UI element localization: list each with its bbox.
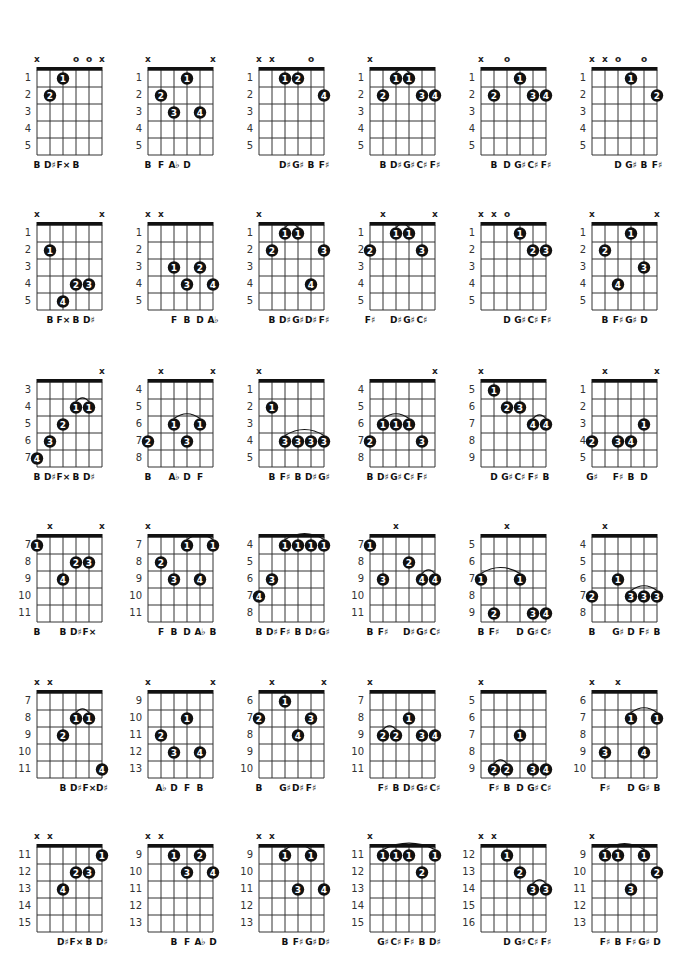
finger-dot: 1	[651, 712, 663, 724]
fret-number: 2	[564, 401, 586, 412]
svg-text:1: 1	[517, 575, 523, 585]
svg-text:3: 3	[419, 437, 425, 447]
fret-number: 9	[564, 746, 586, 757]
finger-dot: 4	[57, 883, 69, 895]
fret-number: 11	[120, 607, 142, 618]
finger-dot: 4	[612, 278, 624, 290]
fret-number: 2	[120, 89, 142, 100]
fret-number: 5	[453, 695, 475, 706]
svg-text:1: 1	[197, 420, 203, 430]
fret-number: 8	[9, 556, 31, 567]
note-name: C♯	[527, 160, 540, 170]
finger-dot: 1	[318, 539, 330, 551]
finger-dot: 3	[599, 746, 611, 758]
svg-text:3: 3	[419, 91, 425, 101]
finger-dot: 3	[416, 244, 428, 256]
nut-bar	[481, 690, 547, 694]
note-name: C♯	[403, 472, 416, 482]
note-name: F♯	[651, 160, 664, 170]
note-name: F	[181, 783, 194, 793]
finger-dot: 2	[70, 278, 82, 290]
finger-dot: 2	[142, 435, 154, 447]
svg-text:3: 3	[308, 714, 314, 724]
note-name: F♯	[599, 937, 612, 947]
fret-number: 7	[564, 712, 586, 723]
note-name: G♯	[638, 783, 651, 793]
fret-number: 3	[9, 106, 31, 117]
note-name: F♯	[638, 627, 651, 637]
finger-dot: 4	[429, 729, 441, 741]
svg-text:2: 2	[504, 403, 510, 413]
finger-dot: 3	[527, 883, 539, 895]
svg-text:1: 1	[210, 541, 216, 551]
nut-bar	[481, 222, 547, 226]
fret-number: 4	[231, 278, 253, 289]
fret-number: 8	[342, 452, 364, 463]
muted-string-marker: x	[143, 831, 153, 841]
svg-text:3: 3	[86, 868, 92, 878]
fret-number: 5	[120, 401, 142, 412]
svg-text:1: 1	[602, 851, 608, 861]
finger-dot: 2	[501, 763, 513, 775]
barre-arc	[76, 398, 89, 402]
chord-diagram: 12412345xxoD♯G♯BF♯	[229, 52, 339, 182]
note-name: D♯	[390, 315, 403, 325]
fret-number: 13	[453, 866, 475, 877]
finger-dot: 4	[194, 573, 206, 585]
finger-dot: 1	[612, 849, 624, 861]
fret-number: 9	[342, 729, 364, 740]
note-name: C♯	[416, 315, 429, 325]
nut-bar	[37, 222, 103, 226]
finger-dot: 4	[57, 573, 69, 585]
muted-string-marker: x	[587, 54, 597, 64]
open-string-marker: o	[502, 54, 512, 64]
svg-text:2: 2	[589, 437, 595, 447]
fret-number: 16	[453, 917, 475, 928]
svg-text:3: 3	[517, 403, 523, 413]
chord-diagram: 123412345xxBF×BD♯	[7, 207, 117, 337]
barre-arc	[422, 570, 435, 574]
svg-text:1: 1	[99, 851, 105, 861]
finger-dot: 1	[390, 72, 402, 84]
muted-string-marker: x	[489, 831, 499, 841]
finger-dot: 1	[292, 539, 304, 551]
finger-dot: 1	[514, 729, 526, 741]
fret-number: 6	[9, 435, 31, 446]
fret-number: 6	[453, 712, 475, 723]
note-name: C♯	[540, 783, 553, 793]
svg-text:1: 1	[184, 541, 190, 551]
muted-string-marker: x	[32, 209, 42, 219]
note-name: B	[31, 627, 44, 637]
finger-dot: 4	[207, 278, 219, 290]
fret-number: 4	[453, 278, 475, 289]
note-name: B	[292, 472, 305, 482]
finger-dot: 1	[390, 227, 402, 239]
finger-dot: 2	[57, 729, 69, 741]
muted-string-marker: x	[476, 54, 486, 64]
chord-diagram: 123447891011xBF♯D♯G♯C♯	[340, 519, 450, 649]
fret-number: 7	[120, 435, 142, 446]
fret-number: 9	[231, 849, 253, 860]
note-name: G♯	[292, 315, 305, 325]
finger-dot: 1	[181, 72, 193, 84]
finger-dot: 3	[44, 435, 56, 447]
note-name: F♯	[377, 783, 390, 793]
finger-dot: 1	[305, 539, 317, 551]
fret-number: 10	[342, 746, 364, 757]
svg-text:1: 1	[380, 851, 386, 861]
finger-dot: 4	[540, 607, 552, 619]
open-string-marker: o	[306, 54, 316, 64]
fret-number: 12	[120, 746, 142, 757]
finger-dot: 2	[44, 89, 56, 101]
muted-string-marker: x	[430, 366, 440, 376]
fret-number: 3	[231, 106, 253, 117]
finger-dot: 2	[364, 435, 376, 447]
svg-text:2: 2	[602, 246, 608, 256]
chord-diagram: 12347891011xxBBD♯F×	[7, 519, 117, 649]
finger-dot: 3	[279, 435, 291, 447]
svg-text:1: 1	[393, 229, 399, 239]
note-name: D♯	[390, 160, 403, 170]
muted-string-marker: x	[587, 209, 597, 219]
fret-number: 6	[342, 418, 364, 429]
svg-text:2: 2	[295, 74, 301, 84]
